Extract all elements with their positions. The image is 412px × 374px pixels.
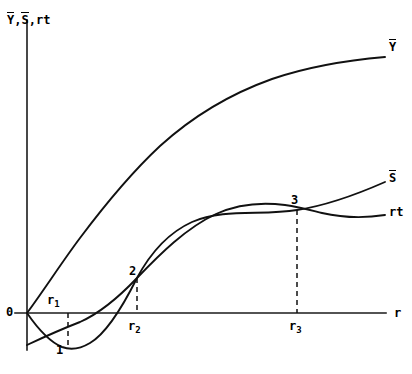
tick-label-r1: r1 xyxy=(47,294,60,309)
origin-label: 0 xyxy=(6,306,13,318)
x-axis-label: r xyxy=(394,307,401,319)
tick-label-r3-sub: 3 xyxy=(296,325,301,335)
point-label-1: 1 xyxy=(56,344,63,356)
curve-label-s-bar: S xyxy=(389,172,396,184)
tick-label-r2-sub: 2 xyxy=(135,325,140,335)
figure-canvas: Y,S,rt 0 r Y S rt 1 2 3 r1 r2 r3 xyxy=(0,0,412,374)
y-axis-label-rt: ,rt xyxy=(29,13,51,27)
y-axis-label-ybar: Y xyxy=(7,14,14,26)
y-axis-label-comma: , xyxy=(14,13,21,27)
point-label-2: 2 xyxy=(129,265,136,277)
tick-label-r3: r3 xyxy=(289,320,302,335)
y-axis-label: Y,S,rt xyxy=(7,14,50,26)
curve-label-y-bar: Y xyxy=(389,41,396,53)
curve-label-s-bar-text: S xyxy=(389,172,396,184)
curve-y-bar xyxy=(27,57,385,313)
curve-label-rt: rt xyxy=(389,206,403,218)
curve-label-y-bar-text: Y xyxy=(389,41,396,53)
curve-rt xyxy=(27,204,385,345)
curve-s-bar xyxy=(27,182,385,349)
figure-plot xyxy=(0,0,412,374)
point-label-3: 3 xyxy=(291,194,298,206)
tick-label-r2: r2 xyxy=(128,320,141,335)
tick-label-r1-sub: 1 xyxy=(54,299,59,309)
y-axis-label-sbar: S xyxy=(21,14,28,26)
